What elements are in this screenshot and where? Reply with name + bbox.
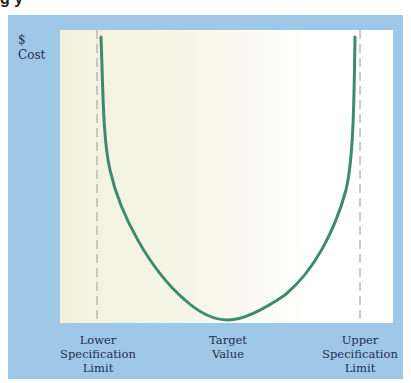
x-label-target: Target Value [173,333,283,361]
x-label-upper-spec: Upper Specification Limit [305,333,411,375]
y-axis-label: $ Cost [18,33,45,63]
loss-curve-graphic [0,0,411,383]
x-label-lower-spec: Lower Specification Limit [43,333,153,375]
cost-curve [101,37,355,320]
